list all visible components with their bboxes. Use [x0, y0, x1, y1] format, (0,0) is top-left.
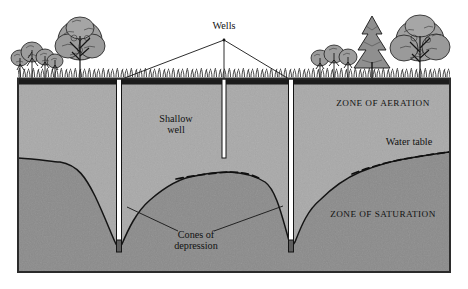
ground-surface [18, 68, 450, 85]
surface-soil-band [18, 79, 450, 85]
middle-shallow-well[interactable] [222, 79, 226, 158]
water-table-label: Water table [386, 136, 432, 147]
figure-canvas: Wells Shallow well ZONE OF AERATION ZONE… [0, 0, 468, 289]
earth-texture [18, 84, 450, 272]
left-deep-well[interactable] [117, 79, 122, 252]
earth-block [18, 84, 450, 272]
zone-of-aeration-label: ZONE OF AERATION [336, 99, 429, 109]
cones-of-depression-label: Cones of depression [174, 229, 218, 251]
left-well-casing-tip [117, 240, 122, 252]
wells-label: Wells [213, 20, 236, 31]
right-well-casing-tip [289, 240, 294, 252]
right-deep-well[interactable] [289, 79, 294, 252]
grass-band [18, 68, 450, 79]
shallow-well-label: Shallow well [159, 113, 192, 135]
zone-of-saturation-label: ZONE OF SATURATION [330, 210, 436, 220]
